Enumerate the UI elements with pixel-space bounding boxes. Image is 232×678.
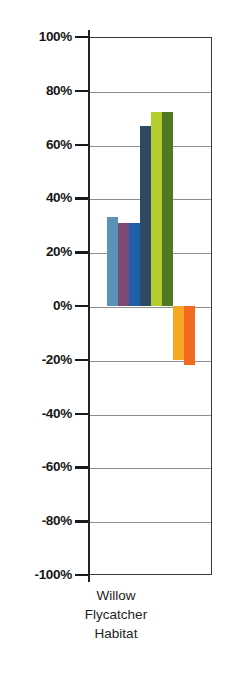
bar-series-3 <box>129 223 140 306</box>
bar-series-5 <box>151 112 162 306</box>
y-axis-tick-label: -80% <box>0 514 72 528</box>
bar-series-8 <box>184 306 195 365</box>
bar-series-4 <box>140 126 151 306</box>
y-axis-tick-label: 0% <box>0 299 72 313</box>
y-axis-tick-label: 100% <box>0 30 72 44</box>
y-axis-tick-label: 80% <box>0 84 72 98</box>
x-label-line-3: Habitat <box>0 624 232 643</box>
y-axis-tick-label: -100% <box>0 568 72 582</box>
y-axis-tick-label: -60% <box>0 460 72 474</box>
bar-series-6 <box>162 112 173 306</box>
x-label-line-1: Willow <box>0 586 232 605</box>
bar-series-1 <box>107 217 118 306</box>
y-axis-tick-label: -40% <box>0 407 72 421</box>
bar-group <box>88 37 212 575</box>
y-axis-tick-label: 60% <box>0 138 72 152</box>
y-axis-tick-label: 40% <box>0 191 72 205</box>
y-axis-tick-label: -20% <box>0 353 72 367</box>
y-axis-tick-label: 20% <box>0 245 72 259</box>
bar-chart: 100%80%60%40%20%0%-20%-40%-60%-80%-100% … <box>0 0 232 678</box>
x-axis-category-label: Willow Flycatcher Habitat <box>0 586 232 643</box>
bar-series-7 <box>173 306 184 360</box>
bar-series-2 <box>118 223 129 306</box>
x-label-line-2: Flycatcher <box>0 605 232 624</box>
